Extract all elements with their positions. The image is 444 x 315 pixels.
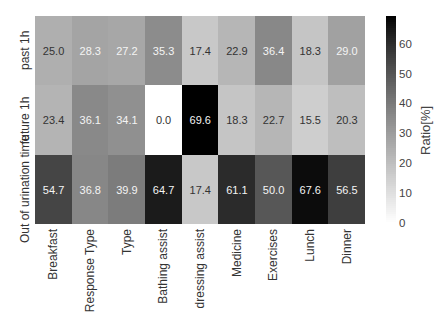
colorbar-tick-label: 30 (399, 127, 412, 139)
y-tick-label: Out of urination time (18, 135, 32, 243)
heatmap-cell: 17.4 (182, 16, 219, 86)
heatmap-cell: 39.9 (108, 155, 145, 225)
x-tick-label: Lunch (303, 229, 317, 262)
colorbar-tick-label: 20 (399, 157, 412, 169)
heatmap-cell: 22.7 (255, 85, 292, 155)
heatmap-cell: 61.1 (218, 155, 255, 225)
x-tick-label: Bathing assist (156, 229, 170, 304)
heatmap-cell: 56.5 (328, 155, 365, 225)
heatmap-cell: 35.3 (145, 16, 182, 86)
y-tick-label: past 1h (18, 31, 32, 70)
heatmap-cell: 22.9 (218, 16, 255, 86)
colorbar-tick-label: 60 (399, 38, 412, 50)
heatmap-cell: 25.0 (35, 16, 72, 86)
x-tick-label: Exercises (266, 229, 280, 281)
heatmap-cell: 23.4 (35, 85, 72, 155)
heatmap-cell: 69.6 (182, 85, 219, 155)
heatmap-cell: 20.3 (328, 85, 365, 155)
heatmap-cell: 34.1 (108, 85, 145, 155)
heatmap-cell: 64.7 (145, 155, 182, 225)
colorbar-tick-label: 50 (399, 68, 412, 80)
x-tick-label: Dinner (340, 229, 354, 264)
x-tick-label: dressing assist (193, 229, 207, 308)
heatmap-cell: 27.2 (108, 16, 145, 86)
heatmap-cell: 29.0 (328, 16, 365, 86)
x-tick-label: Response Type (83, 229, 97, 312)
colorbar-tick-label: 10 (399, 187, 412, 199)
heatmap-cell: 18.3 (218, 85, 255, 155)
heatmap-cell: 36.1 (72, 85, 109, 155)
heatmap-cell: 18.3 (292, 16, 329, 86)
heatmap-cell: 28.3 (72, 16, 109, 86)
heatmap-cell: 36.4 (255, 16, 292, 86)
colorbar-tick-label: 40 (399, 97, 412, 109)
colorbar-segment (386, 222, 396, 225)
colorbar-tick-label: 0 (399, 217, 405, 229)
heatmap-chart: 25.028.327.235.317.422.936.418.329.023.4… (0, 0, 444, 315)
heatmap-cell: 0.0 (145, 85, 182, 155)
heatmap-cell: 50.0 (255, 155, 292, 225)
x-tick-label: Type (120, 229, 134, 255)
x-tick-label: Breakfast (46, 229, 60, 280)
heatmap-cell: 54.7 (35, 155, 72, 225)
heatmap-cell: 36.8 (72, 155, 109, 225)
heatmap-cell: 67.6 (292, 155, 329, 225)
colorbar-label: Ratio[%] (418, 105, 433, 154)
x-tick-label: Medicine (230, 229, 244, 277)
heatmap-cell: 15.5 (292, 85, 329, 155)
heatmap-cell: 17.4 (182, 155, 219, 225)
